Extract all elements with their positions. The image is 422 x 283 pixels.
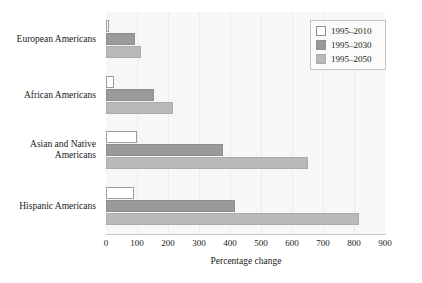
x-axis-line [106, 234, 386, 235]
legend-label: 1995–2030 [331, 40, 372, 51]
x-tick-label: 700 [316, 237, 330, 249]
legend-swatch [316, 26, 326, 36]
legend-entry: 1995–2010 [316, 25, 381, 37]
x-axis-tick-labels: 0100200300400500600700800900 [0, 237, 422, 251]
bar [106, 46, 141, 58]
bar [106, 20, 109, 32]
bar-group [106, 131, 385, 172]
bar [106, 187, 134, 199]
category-label: African Americans [0, 89, 100, 100]
legend-swatch [316, 54, 326, 64]
bar [106, 131, 137, 143]
category-label: European Americans [0, 34, 100, 45]
legend-swatch [316, 40, 326, 50]
bar [106, 89, 154, 101]
category-axis-labels: European AmericansAfrican AmericansAsian… [0, 12, 100, 234]
legend-label: 1995–2010 [331, 26, 372, 37]
legend: 1995–20101995–20301995–2050 [310, 20, 386, 70]
x-tick-label: 0 [104, 237, 109, 249]
x-tick-label: 200 [161, 237, 175, 249]
bar [106, 157, 308, 169]
legend-entry: 1995–2050 [316, 53, 381, 65]
x-axis-title: Percentage change [106, 255, 386, 267]
x-tick-label: 500 [254, 237, 268, 249]
legend-label: 1995–2050 [331, 54, 372, 65]
x-tick-label: 600 [285, 237, 299, 249]
x-tick-label: 100 [130, 237, 144, 249]
category-label: Hispanic Americans [0, 200, 100, 211]
bar [106, 213, 359, 225]
bar [106, 102, 173, 114]
x-tick-label: 300 [192, 237, 206, 249]
bar-chart-figure: European AmericansAfrican AmericansAsian… [0, 0, 422, 283]
x-tick-label: 900 [378, 237, 392, 249]
bar [106, 200, 235, 212]
bar-group [106, 187, 385, 228]
bar-group [106, 76, 385, 117]
x-tick-label: 800 [347, 237, 361, 249]
category-label: Asian and Native Americans [0, 139, 100, 161]
bar [106, 144, 223, 156]
bar [106, 76, 114, 88]
x-tick-label: 400 [223, 237, 237, 249]
bar [106, 33, 135, 45]
legend-entry: 1995–2030 [316, 39, 381, 51]
